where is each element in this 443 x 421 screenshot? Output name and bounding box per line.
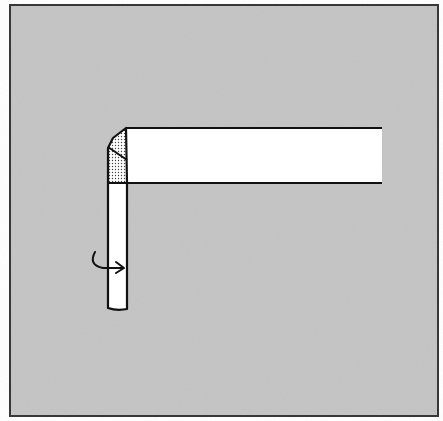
horizontal-strip: [108, 128, 382, 183]
folding-diagram: [0, 0, 443, 421]
vertical-strip: [108, 183, 127, 310]
